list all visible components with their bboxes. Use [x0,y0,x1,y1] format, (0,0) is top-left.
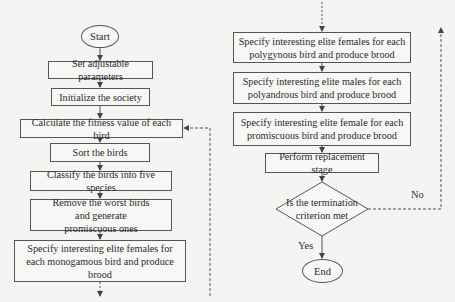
step-label: Specify interesting elite females for ea… [238,35,406,61]
step-label: Calculate the fitness value of each bird [23,116,180,142]
step-remove-worst: Remove the worst birds and generate prom… [30,199,172,231]
end-label: End [314,266,331,277]
start-label: Start [90,31,110,42]
step-replacement: Perform replacement stage [265,153,379,173]
step-label: Classify the birds into five species [33,168,169,194]
step-initialize-society: Initialize the society [51,88,150,106]
step-label: Specify interesting elite females for ea… [19,242,181,281]
end-terminal: End [302,259,343,283]
no-label: No [411,189,424,200]
step-polyandrous-brood: Specify interesting elite males for each… [233,72,411,104]
step-sort-birds: Sort the birds [50,143,150,162]
step-label: Remove the worst birds and generate prom… [49,196,153,235]
step-label: Sort the birds [73,146,128,159]
step-label: Set adjustable parameters [51,57,150,83]
step-label: Perform replacement stage [268,150,376,176]
decision-termination: Is the termination criterion met [277,196,367,222]
step-promiscuous-brood: Specify interesting elite female for eac… [233,112,411,146]
step-calculate-fitness: Calculate the fitness value of each bird [20,119,183,138]
step-label: Initialize the society [59,91,142,104]
step-monogamous-brood: Specify interesting elite females for ea… [14,240,186,282]
start-terminal: Start [81,25,119,48]
step-polygynous-brood: Specify interesting elite females for ea… [233,32,411,63]
decision-label: Is the termination criterion met [286,197,358,221]
step-set-parameters: Set adjustable parameters [48,61,153,79]
step-label: Specify interesting elite males for each… [240,75,404,101]
yes-label: Yes [298,240,313,251]
step-label: Specify interesting elite female for eac… [240,116,404,142]
step-classify-species: Classify the birds into five species [30,171,172,191]
